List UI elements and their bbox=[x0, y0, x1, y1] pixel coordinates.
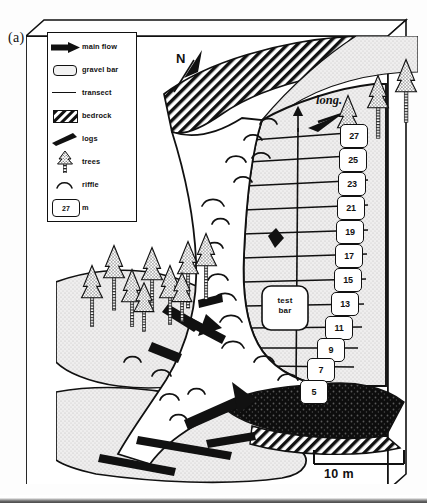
legend-item-logs: logs bbox=[48, 127, 136, 150]
transect-marker-19[interactable]: 19 bbox=[336, 220, 364, 244]
test-bar-label: test bar bbox=[268, 296, 302, 316]
legend-label-metres: m bbox=[82, 204, 89, 211]
longitudinal-label: long. bbox=[316, 94, 342, 107]
bedrock-hatch-icon bbox=[48, 104, 82, 127]
test-bar-label-line1: test bbox=[277, 296, 292, 305]
transect-marker-sample-value: 27 bbox=[52, 199, 80, 217]
transect-marker-11[interactable]: 11 bbox=[325, 316, 353, 340]
north-label: N bbox=[176, 52, 186, 65]
transect-marker-23[interactable]: 23 bbox=[338, 172, 366, 196]
transect-marker-15[interactable]: 15 bbox=[334, 268, 362, 292]
transect-marker-7[interactable]: 7 bbox=[307, 358, 335, 382]
tree-icon bbox=[48, 150, 82, 173]
log-icon bbox=[48, 127, 82, 150]
figure-root: (a) bbox=[0, 0, 427, 503]
legend-label-bedrock: bedrock bbox=[82, 112, 111, 119]
transect-marker-icon: 27 bbox=[48, 196, 82, 219]
legend-item-riffle: riffle bbox=[48, 173, 136, 196]
legend-item-gravel-bar: gravel bar bbox=[48, 58, 136, 81]
legend-item-transect: transect bbox=[48, 81, 136, 104]
legend-label-trees: trees bbox=[82, 158, 100, 165]
main-flow-arrow-icon bbox=[48, 35, 82, 58]
legend-label-main-flow: main flow bbox=[82, 43, 117, 50]
transect-marker-25[interactable]: 25 bbox=[339, 148, 367, 172]
legend-item-main-flow: main flow bbox=[48, 35, 136, 58]
transect-marker-27[interactable]: 27 bbox=[340, 124, 368, 148]
test-bar-label-line2: bar bbox=[278, 306, 291, 315]
legend-item-trees: trees bbox=[48, 150, 136, 173]
legend-label-gravel-bar: gravel bar bbox=[82, 66, 118, 73]
scan-edge-artifact bbox=[0, 495, 427, 503]
scale-bar-label: 10 m bbox=[324, 468, 354, 481]
panel-label: (a) bbox=[8, 30, 24, 46]
transect-marker-13[interactable]: 13 bbox=[331, 292, 359, 316]
legend-item-transect-marker: 27 m bbox=[48, 196, 136, 219]
legend-label-logs: logs bbox=[82, 135, 98, 142]
transect-marker-17[interactable]: 17 bbox=[335, 244, 363, 268]
legend-label-transect: transect bbox=[82, 89, 112, 96]
riffle-arc-icon bbox=[48, 173, 82, 196]
transect-marker-5[interactable]: 5 bbox=[300, 380, 328, 404]
legend-item-bedrock: bedrock bbox=[48, 104, 136, 127]
transect-marker-21[interactable]: 21 bbox=[337, 196, 365, 220]
legend-box: main flow gravel bar transect bbox=[47, 32, 137, 222]
gravel-bar-swatch-icon bbox=[48, 58, 82, 81]
legend-label-riffle: riffle bbox=[82, 181, 99, 188]
transect-line-icon bbox=[48, 81, 82, 104]
